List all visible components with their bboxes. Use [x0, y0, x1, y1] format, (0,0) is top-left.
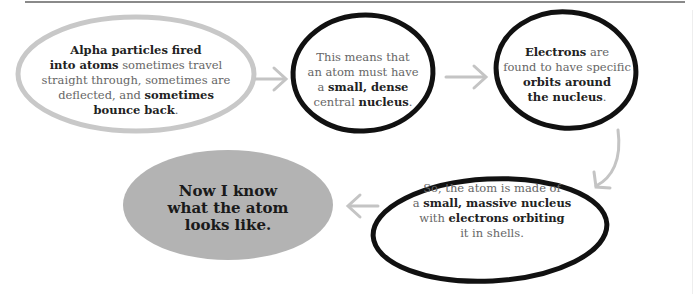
node-2-line-2: an atom must have	[308, 65, 419, 79]
node-3-line-2: found to have specific	[503, 60, 631, 74]
arrow-2-icon	[446, 66, 486, 88]
node-2-text: This means that an atom must have a smal…	[300, 50, 426, 110]
node-2-bold-3: small, dense	[328, 80, 408, 94]
node-5-line-3: looks like.	[185, 216, 271, 234]
node-2-period: .	[409, 95, 413, 109]
node-4-line-2: a	[413, 196, 424, 210]
node-1-line-4: deflected, and	[58, 88, 144, 102]
node-4-bold-2: small, massive nucleus	[423, 196, 571, 210]
node-1-bold-5: bounce back	[94, 103, 175, 117]
node-1-bold-2: into atoms	[50, 58, 119, 72]
arrow-1-icon	[256, 68, 286, 90]
node-2-line-1: This means that	[316, 50, 409, 64]
node-3-bold-3: orbits around	[523, 75, 611, 89]
node-3-bold-4: the nucleus	[528, 90, 603, 104]
node-1-line-2: sometimes travel	[119, 58, 223, 72]
node-2-line-3: a	[318, 80, 329, 94]
node-2-line-4: central	[314, 95, 359, 109]
node-4-text: So, the atom is made of a small, massive…	[392, 181, 592, 241]
node-5-line-2: what the atom	[168, 199, 289, 217]
node-1-line-3: straight through, sometimes are	[42, 73, 231, 87]
node-3-period: .	[603, 90, 607, 104]
node-4-line-3: with	[419, 211, 448, 225]
arrow-4-icon	[348, 195, 378, 217]
node-5-line-1: Now I know	[179, 182, 277, 200]
node-2-bold-4: nucleus	[359, 95, 409, 109]
node-1-period: .	[175, 103, 179, 117]
node-4-line-4: it in shells.	[460, 226, 524, 240]
node-5-text: Now I know what the atom looks like.	[150, 183, 306, 234]
node-3-bold-1: Electrons	[525, 45, 586, 59]
node-1-bold-4: sometimes	[145, 88, 214, 102]
arrow-3-icon	[594, 130, 619, 188]
node-3-line-1: are	[586, 45, 609, 59]
node-4-bold-3: electrons orbiting	[449, 211, 565, 225]
node-4-line-1: So, the atom is made of	[423, 181, 561, 195]
node-1-line-1: Alpha particles fired	[70, 43, 201, 57]
node-1-text: Alpha particles fired into atoms sometim…	[40, 43, 232, 118]
node-3-text: Electrons are found to have specific orb…	[500, 45, 634, 105]
